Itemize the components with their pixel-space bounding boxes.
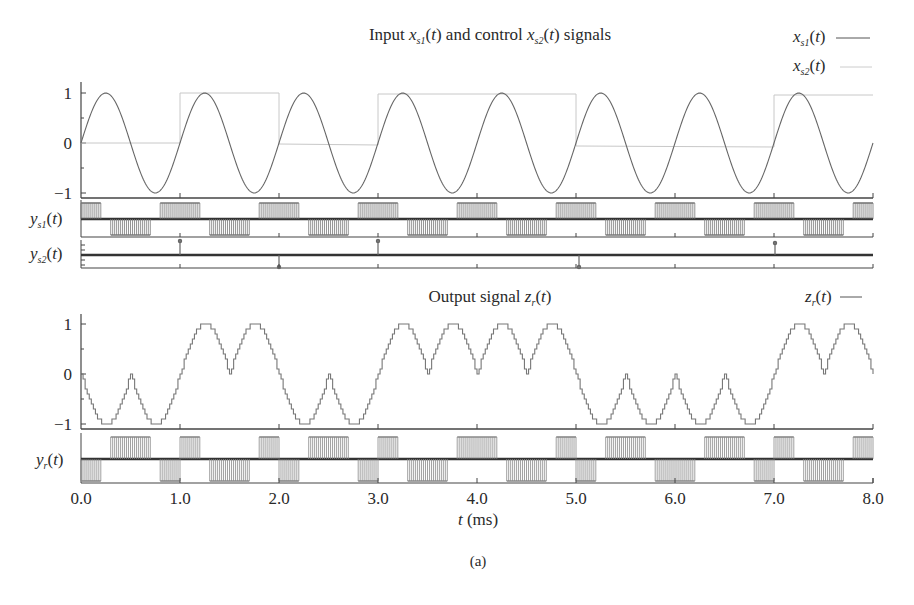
series-xs2 [81, 93, 873, 147]
xtick-label: 6.0 [664, 489, 685, 508]
ys2-strip: ys2(t) [28, 239, 873, 268]
top-plot: 1 0 −1 [54, 82, 873, 203]
x-axis-ticks: 0.01.02.03.04.05.06.07.08.0 [70, 193, 883, 508]
ytick-bottom-1: 1 [64, 315, 73, 334]
xtick-label: 2.0 [268, 489, 289, 508]
xtick-label: 1.0 [169, 489, 190, 508]
legend-label-xs1: xs1(t) [792, 27, 826, 48]
yr-strip: yr(t) [34, 433, 873, 483]
ytick-top-1: 1 [64, 84, 73, 103]
xtick-label: 3.0 [367, 489, 388, 508]
xtick-label: 7.0 [763, 489, 784, 508]
top-legend: xs1(t) xs2(t) [792, 27, 872, 77]
series-xs1 [81, 93, 873, 193]
ytick-bottom-0: 0 [64, 365, 73, 384]
ys1-label: ys1(t) [28, 209, 63, 230]
xtick-label: 5.0 [565, 489, 586, 508]
ys2-label: ys2(t) [28, 244, 63, 265]
series-zr [81, 324, 873, 424]
legend-label-zr: zr(t) [804, 287, 832, 308]
xtick-label: 0.0 [70, 489, 91, 508]
bottom-panel-title: Output signal zr(t) [429, 287, 552, 308]
bottom-legend: zr(t) [804, 287, 862, 308]
yr-label: yr(t) [34, 450, 64, 471]
x-axis-label: t (ms) [458, 510, 498, 529]
ytick-bottom-neg1: −1 [54, 415, 72, 434]
top-panel-title: Input xs1(t) and control xs2(t) signals [369, 25, 611, 46]
legend-label-xs2: xs2(t) [792, 56, 826, 77]
figure-canvas: Input xs1(t) and control xs2(t) signals … [0, 0, 914, 605]
figure-caption: (a) [470, 553, 487, 570]
xtick-label: 8.0 [862, 489, 883, 508]
ys1-strip: ys1(t) [28, 200, 873, 237]
ytick-top-0: 0 [64, 134, 73, 153]
ytick-top-neg1: −1 [54, 184, 72, 203]
bottom-plot: 1 0 −1 [54, 314, 873, 434]
xtick-label: 4.0 [466, 489, 487, 508]
